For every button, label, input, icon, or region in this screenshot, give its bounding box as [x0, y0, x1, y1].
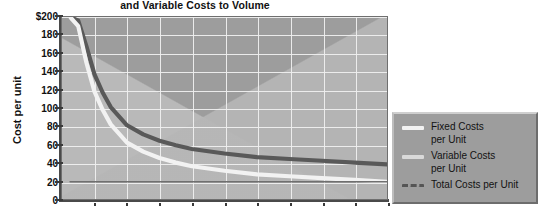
- chart-title: and Variable Costs to Volume: [0, 0, 390, 11]
- series-lines: [62, 17, 387, 199]
- x-tick-mark: [159, 203, 161, 206]
- plot-area: [61, 16, 388, 200]
- legend-label-line1: Total Costs per Unit: [431, 179, 518, 192]
- legend-label: Total Costs per Unit: [431, 179, 518, 192]
- chart-stage: and Variable Costs to Volume Cost per un…: [0, 0, 542, 206]
- legend-item: Total Costs per Unit: [402, 179, 530, 192]
- legend-label-line2: per Unit: [431, 134, 484, 147]
- x-tick-mark: [290, 203, 292, 206]
- y-tick-mark: [55, 107, 63, 109]
- legend-swatch: [402, 184, 424, 190]
- series-line: [70, 17, 387, 182]
- x-tick-mark: [355, 203, 357, 206]
- x-tick-mark: [192, 203, 194, 206]
- plot-inner: [62, 17, 387, 199]
- legend-label: Variable Costsper Unit: [431, 150, 495, 175]
- x-tick-mark: [94, 203, 96, 206]
- x-tick-mark: [388, 203, 390, 206]
- y-tick-mark: [55, 33, 63, 35]
- y-tick-mark: [55, 70, 63, 72]
- series-line: [70, 17, 387, 164]
- y-tick-mark: [55, 52, 63, 54]
- legend-label-line2: per Unit: [431, 163, 495, 176]
- y-tick-mark: [55, 15, 63, 17]
- x-tick-mark: [257, 203, 259, 206]
- y-tick-mark: [55, 144, 63, 146]
- legend-swatch: [402, 155, 424, 159]
- chart-legend: Fixed Costsper UnitVariable Costsper Uni…: [392, 112, 538, 204]
- y-tick-mark: [55, 89, 63, 91]
- y-tick-mark: [55, 199, 63, 201]
- legend-label-line1: Fixed Costs: [431, 121, 484, 134]
- legend-swatch: [402, 126, 424, 130]
- y-tick-mark: [55, 162, 63, 164]
- legend-label-line1: Variable Costs: [431, 150, 495, 163]
- legend-item: Fixed Costsper Unit: [402, 121, 530, 146]
- y-tick-mark: [55, 125, 63, 127]
- x-tick-mark: [225, 203, 227, 206]
- x-tick-mark: [323, 203, 325, 206]
- legend-label: Fixed Costsper Unit: [431, 121, 484, 146]
- y-tick-mark: [55, 181, 63, 183]
- legend-item: Variable Costsper Unit: [402, 150, 530, 175]
- x-tick-mark: [126, 203, 128, 206]
- y-axis-tick-labels: 020406080100120140160180$200: [18, 12, 58, 202]
